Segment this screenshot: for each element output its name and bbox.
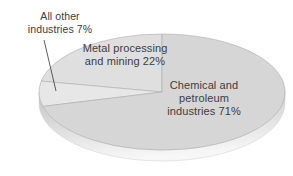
slice-label-chemical-petroleum: Chemical and petroleum industries 71% <box>144 79 264 118</box>
pie-chart-figure: All other industries 7% Metal processing… <box>0 0 293 176</box>
slice-label-metal-processing-mining: Metal processing and mining 22% <box>65 42 185 68</box>
slice-label-all-other-industries: All other industries 7% <box>12 10 108 36</box>
